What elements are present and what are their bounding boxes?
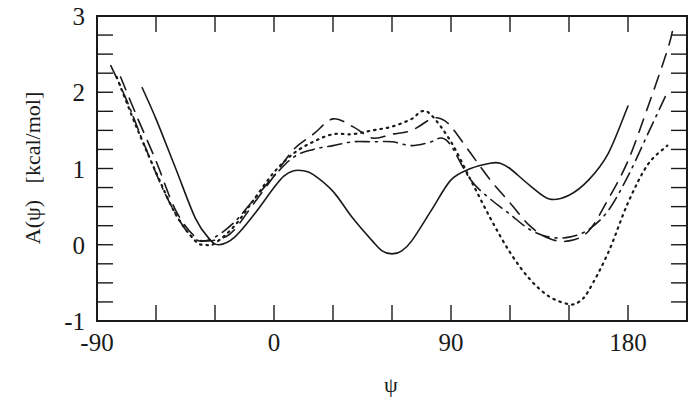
series-layer	[111, 27, 673, 304]
x-tick-labels: -90090180	[80, 329, 646, 356]
x-tick-label: -90	[80, 329, 113, 356]
y-tick-label: 0	[73, 232, 86, 259]
chart: -90090180 -10123 ψ A(ψ) [kcal/mol]	[0, 0, 696, 407]
y-axis-title: A(ψ) [kcal/mol]	[20, 92, 45, 244]
x-tick-label: 0	[268, 329, 281, 356]
y-tick-label: 2	[73, 79, 86, 106]
series-dotted	[117, 77, 668, 305]
series-solid	[142, 88, 628, 254]
series-long-dash	[121, 27, 674, 241]
x-tick-label: 180	[609, 329, 647, 356]
x-axis-title: ψ	[384, 372, 398, 397]
y-tick-label: 3	[73, 3, 86, 30]
y-tick-labels: -10123	[64, 3, 85, 335]
y-tick-label: 1	[73, 156, 86, 183]
x-tick-label: 90	[439, 329, 464, 356]
y-tick-label: -1	[64, 308, 85, 335]
